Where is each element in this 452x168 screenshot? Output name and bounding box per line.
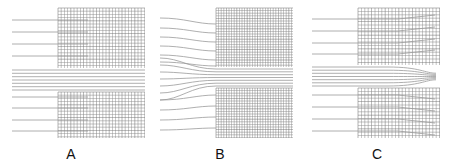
porous-block-top-a [58, 8, 145, 68]
streamline [160, 117, 216, 120]
streamline [160, 128, 216, 130]
panel-label-b: B [210, 146, 230, 162]
panel-b-diagram [160, 8, 293, 138]
streamline [312, 39, 435, 43]
streamline [160, 72, 293, 75]
streamline [160, 78, 293, 80]
streamline [312, 78, 436, 80]
streamline [160, 55, 216, 60]
panel-label-c: C [367, 146, 387, 162]
streamline [160, 37, 216, 42]
panel-c-diagram [312, 8, 440, 138]
streamline [160, 18, 216, 24]
flow-field-figure: A B C [0, 0, 452, 168]
panel-label-a: A [61, 146, 81, 162]
panel-a-diagram [12, 8, 145, 138]
streamline [160, 106, 216, 110]
streamline [312, 73, 436, 75]
porous-block-top-c [358, 8, 440, 65]
flow-diagram-canvas [0, 0, 452, 168]
streamline [312, 131, 435, 135]
streamline [160, 28, 216, 33]
streamline [312, 107, 435, 111]
porous-block-top-b [216, 8, 293, 67]
porous-block-bottom-b [216, 88, 293, 138]
streamline [312, 27, 435, 31]
streamline [312, 119, 435, 123]
streamline [160, 46, 216, 51]
